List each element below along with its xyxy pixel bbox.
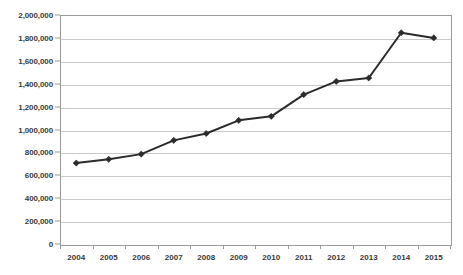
gridline: [61, 199, 451, 200]
y-axis-tick-mark: [55, 60, 60, 61]
y-axis-tick-mark: [55, 83, 60, 84]
x-axis-tick-mark: [353, 245, 354, 249]
x-axis-tick-label: 2010: [262, 253, 280, 262]
y-axis-tick-label: 1,600,000: [0, 56, 53, 65]
y-axis-tick-label: 200,000: [0, 217, 53, 226]
line-chart: 0200,000400,000600,000800,0001,000,0001,…: [0, 0, 463, 275]
y-axis-tick-label: 1,400,000: [0, 79, 53, 88]
x-axis-tick-label: 2009: [230, 253, 248, 262]
x-axis-tick-label: 2007: [165, 253, 183, 262]
x-axis-tick-mark: [450, 245, 451, 249]
x-axis-tick-mark: [255, 245, 256, 249]
y-axis-tick-mark: [55, 129, 60, 130]
y-axis-tick-mark: [55, 152, 60, 153]
gridline: [61, 176, 451, 177]
y-axis-tick-mark: [55, 15, 60, 16]
x-axis-tick-mark: [288, 245, 289, 249]
y-axis-tick-label: 800,000: [0, 148, 53, 157]
gridline: [61, 131, 451, 132]
x-axis-tick-mark: [385, 245, 386, 249]
gridline: [61, 153, 451, 154]
plot-area: [60, 15, 452, 246]
x-axis-tick-mark: [60, 245, 61, 249]
y-axis-tick-mark: [55, 37, 60, 38]
x-axis-tick-mark: [125, 245, 126, 249]
y-axis-tick-label: 1,800,000: [0, 33, 53, 42]
x-axis-tick-label: 2006: [132, 253, 150, 262]
y-axis-tick-mark: [55, 198, 60, 199]
x-axis-tick-label: 2008: [197, 253, 215, 262]
gridline: [61, 85, 451, 86]
x-axis-tick-mark: [93, 245, 94, 249]
x-axis-tick-mark: [223, 245, 224, 249]
x-axis-tick-mark: [158, 245, 159, 249]
x-axis-tick-mark: [190, 245, 191, 249]
y-axis-tick-label: 0: [0, 240, 53, 249]
x-axis-tick-label: 2012: [327, 253, 345, 262]
gridline: [61, 62, 451, 63]
y-axis-tick-mark: [55, 175, 60, 176]
gridline: [61, 108, 451, 109]
x-axis-tick-mark: [418, 245, 419, 249]
gridline: [61, 222, 451, 223]
y-axis-tick-label: 1,200,000: [0, 102, 53, 111]
y-axis-tick-label: 2,000,000: [0, 11, 53, 20]
y-axis-tick-label: 400,000: [0, 194, 53, 203]
x-axis-tick-label: 2004: [67, 253, 85, 262]
y-axis-tick-label: 600,000: [0, 171, 53, 180]
y-axis-tick-mark: [55, 221, 60, 222]
x-axis-tick-label: 2005: [100, 253, 118, 262]
x-axis-tick-mark: [320, 245, 321, 249]
x-axis-tick-label: 2014: [392, 253, 410, 262]
y-axis-tick-mark: [55, 106, 60, 107]
x-axis-tick-label: 2011: [295, 253, 312, 262]
y-axis-tick-label: 1,000,000: [0, 125, 53, 134]
x-axis-tick-label: 2013: [360, 253, 378, 262]
gridline: [61, 39, 451, 40]
x-axis-tick-label: 2015: [425, 253, 443, 262]
y-axis: 0200,000400,000600,000800,0001,000,0001,…: [0, 0, 53, 275]
